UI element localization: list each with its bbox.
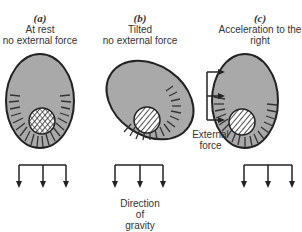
gravity-arrows-a <box>16 165 69 188</box>
gravity-line1: Direction <box>115 198 165 209</box>
external-force-line2: force <box>188 140 233 151</box>
external-force-line1: External <box>188 129 233 140</box>
external-force-label: External force <box>188 129 233 151</box>
panel-b-otolith <box>134 107 160 133</box>
panel-a-ellipse <box>6 54 74 148</box>
gravity-line3: gravity <box>115 220 165 231</box>
gravity-label: Direction of gravity <box>115 198 165 231</box>
gravity-line2: of <box>115 209 165 220</box>
gravity-arrows-b <box>112 165 166 188</box>
gravity-arrows-c <box>241 165 295 188</box>
